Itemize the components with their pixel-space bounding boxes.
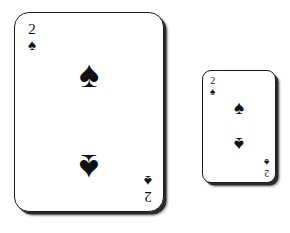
spade-icon: ♠ <box>264 157 269 167</box>
card-rank-label: 2 <box>264 168 269 178</box>
spade-icon: ♠ <box>144 173 152 188</box>
spade-icon: ♠ <box>210 87 215 97</box>
card-rank-label: 2 <box>28 22 36 37</box>
spade-icon: ♠ <box>28 38 36 53</box>
card-rank-label: 2 <box>144 189 152 204</box>
card-index-bottom-right: 2 ♠ <box>144 173 152 204</box>
playing-card-large[interactable]: 2 ♠ ♠ ♠ 2 ♠ <box>14 12 164 212</box>
playing-cards-scene: 2 ♠ ♠ ♠ 2 ♠ 2 ♠ ♠ ♠ 2 ♠ <box>0 0 290 233</box>
spade-icon: ♠ <box>79 55 99 93</box>
spade-icon: ♠ <box>234 98 244 117</box>
spade-icon: ♠ <box>79 149 99 187</box>
card-rank-label: 2 <box>210 76 215 86</box>
card-index-top-left: 2 ♠ <box>210 76 215 97</box>
spade-icon: ♠ <box>234 135 244 154</box>
card-index-top-left: 2 ♠ <box>28 22 36 53</box>
card-index-bottom-right: 2 ♠ <box>264 157 269 178</box>
playing-card-small[interactable]: 2 ♠ ♠ ♠ 2 ♠ <box>202 70 276 183</box>
